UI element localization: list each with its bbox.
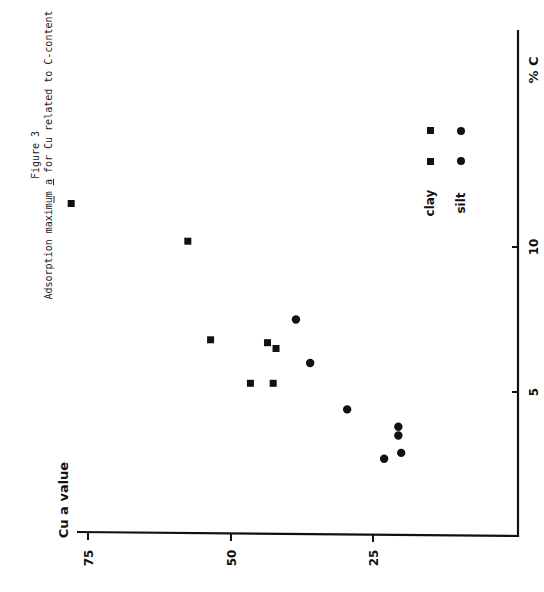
legend-silt-label: silt <box>454 192 468 213</box>
silt-point <box>306 359 314 367</box>
silt-point <box>394 423 402 431</box>
clay-point <box>247 380 254 387</box>
silt-point <box>394 431 402 439</box>
figure-caption: Adsorption maximum a for Cu related to C… <box>43 11 54 300</box>
clay-point <box>264 339 271 346</box>
clay-point <box>270 380 277 387</box>
silt-point <box>380 455 388 463</box>
figure-title: Figure 3 Adsorption maximum a for Cu rel… <box>30 11 54 300</box>
legend-clay-label: clay <box>423 189 437 216</box>
clay-point <box>207 336 214 343</box>
silt-point <box>343 405 351 413</box>
data-points <box>68 200 406 463</box>
axes-frame <box>77 30 518 536</box>
x-tick-10: 10 <box>527 239 541 256</box>
scatter-figure: Figure 3 Adsorption maximum a for Cu rel… <box>0 0 544 592</box>
silt-point <box>292 315 300 323</box>
clay-point <box>68 200 75 207</box>
legend: clay silt <box>423 127 468 216</box>
silt-point <box>397 449 405 457</box>
y-axis-ticks: 75 50 25 <box>82 532 381 566</box>
y-axis-label: Cu a value <box>56 462 71 539</box>
figure-label: Figure 3 <box>30 131 41 179</box>
clay-point <box>184 238 191 245</box>
x-axis-ticks: 10 5 <box>512 239 541 397</box>
y-tick-25: 25 <box>367 550 381 567</box>
y-tick-75: 75 <box>82 550 96 567</box>
x-tick-5: 5 <box>527 388 541 396</box>
x-axis-label: % C <box>526 56 541 83</box>
y-tick-50: 50 <box>225 550 239 567</box>
clay-point <box>273 345 280 352</box>
